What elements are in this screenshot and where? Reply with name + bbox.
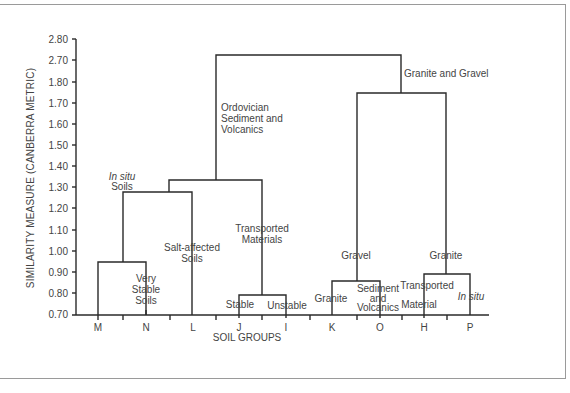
ordovician-label: Ordovician: [221, 102, 269, 113]
svg-text:1.30: 1.30: [49, 182, 69, 193]
cluster-annotations: In situ Soils Very Stable Soils Salt-aff…: [109, 68, 489, 313]
svg-text:O: O: [376, 322, 384, 333]
svg-text:1.40: 1.40: [49, 161, 69, 172]
svg-text:K: K: [329, 322, 336, 333]
svg-text:L: L: [190, 322, 196, 333]
svg-text:I: I: [285, 322, 288, 333]
y-axis-title: SIMILARITY MEASURE (CANBERRA METRIC): [25, 68, 36, 288]
svg-text:Soils: Soils: [111, 181, 133, 192]
dendrogram-chart: 2.80 2.70 1.80 1.70 1.60 1.50 1.40 1.30 …: [0, 0, 570, 393]
svg-text:P: P: [467, 322, 474, 333]
gravel-label: Gravel: [341, 250, 370, 261]
y-ticks: 2.80 2.70 1.80 1.70 1.60 1.50 1.40 1.30 …: [49, 34, 76, 320]
svg-text:0.80: 0.80: [49, 288, 69, 299]
svg-text:1.20: 1.20: [49, 203, 69, 214]
x-tick-labels: M N L J I K O H P: [94, 322, 474, 333]
svg-text:Materials: Materials: [242, 234, 283, 245]
svg-text:0.70: 0.70: [49, 309, 69, 320]
svg-text:Volcanics: Volcanics: [221, 124, 263, 135]
svg-text:Sediment and: Sediment and: [221, 113, 283, 124]
svg-text:Material: Material: [401, 299, 437, 310]
svg-text:N: N: [142, 322, 149, 333]
svg-text:Stable: Stable: [132, 284, 161, 295]
svg-text:1.50: 1.50: [49, 140, 69, 151]
svg-text:H: H: [420, 322, 427, 333]
svg-text:1.00: 1.00: [49, 246, 69, 257]
x-minor-ticks: [123, 315, 447, 320]
granite-label: Granite: [430, 250, 463, 261]
svg-text:0.90: 0.90: [49, 267, 69, 278]
svg-text:2.80: 2.80: [49, 34, 69, 45]
very-stable-soils-label: Very: [136, 273, 156, 284]
transported-materials-label: Transported: [235, 223, 289, 234]
svg-text:1.10: 1.10: [49, 225, 69, 236]
x-axis-title: SOIL GROUPS: [213, 332, 282, 343]
salt-affected-soils-label: Salt-affected: [164, 242, 220, 253]
unstable-label: Unstable: [267, 300, 307, 311]
svg-text:1.70: 1.70: [49, 98, 69, 109]
transported-material-label: Transported: [400, 280, 454, 291]
svg-text:1.80: 1.80: [49, 77, 69, 88]
in-situ-label: In situ: [458, 291, 485, 302]
svg-text:M: M: [94, 322, 102, 333]
granite-k-label: Granite: [315, 293, 348, 304]
svg-text:2.70: 2.70: [49, 55, 69, 66]
svg-text:Soils: Soils: [181, 253, 203, 264]
stable-label: Stable: [226, 299, 255, 310]
svg-text:1.60: 1.60: [49, 119, 69, 130]
svg-text:Soils: Soils: [135, 295, 157, 306]
svg-text:Volcanics: Volcanics: [357, 302, 399, 313]
granite-and-gravel-label: Granite and Gravel: [404, 68, 489, 79]
